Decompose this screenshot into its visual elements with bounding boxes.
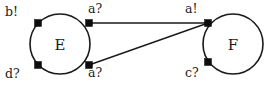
port-label-d-query: d? [5, 68, 20, 81]
diagram-svg: E F [0, 0, 277, 87]
port-e-top-left-marker[interactable] [35, 20, 42, 27]
port-f-top-left-marker[interactable] [205, 20, 212, 27]
port-label-b-bang: b! [5, 6, 18, 19]
port-label-a-query-1: a? [88, 3, 102, 16]
port-label-c-query: c? [185, 67, 199, 80]
node-f-label: F [228, 36, 238, 54]
edge-diagonal [89, 23, 208, 65]
edge-group [89, 23, 208, 65]
node-f[interactable]: F [203, 14, 263, 74]
port-e-top-right-marker[interactable] [86, 20, 93, 27]
diagram-canvas: E F b! a? d? a? a! c? [0, 0, 277, 87]
port-label-a-query-2: a? [88, 67, 102, 80]
port-f-bottom-left-marker[interactable] [205, 59, 212, 66]
node-e-label: E [55, 36, 66, 54]
port-label-a-bang: a! [185, 3, 197, 16]
port-e-bottom-left-marker[interactable] [35, 62, 42, 69]
